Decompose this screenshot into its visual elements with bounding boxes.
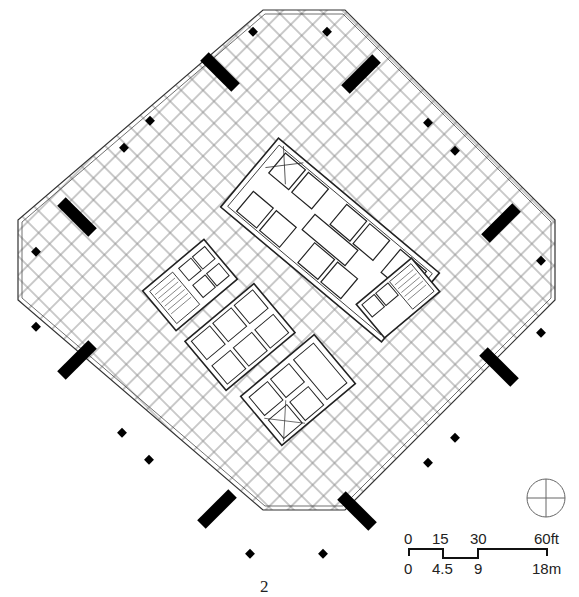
scale-m-18: 18m [532,560,561,577]
scale-m-4-5: 4.5 [432,560,453,577]
scale-bar [409,549,547,558]
floor-plan-drawing [0,0,579,597]
north-arrow-icon [527,479,565,517]
scale-ft-30: 30 [470,530,487,547]
figure-number: 2 [260,577,269,597]
scale-ft-0: 0 [404,530,412,547]
scale-ft-60: 60ft [534,530,559,547]
column-sw-bottom [197,489,237,529]
scale-m-0: 0 [404,560,412,577]
scale-m-9: 9 [474,560,482,577]
scale-ft-15: 15 [432,530,449,547]
